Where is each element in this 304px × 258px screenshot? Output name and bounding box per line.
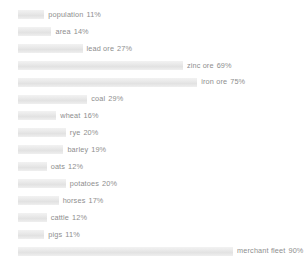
bar-row-horses: horses17% xyxy=(18,194,104,207)
bar-value-lead-ore: 27% xyxy=(117,44,132,53)
bar-label-barley: barley19% xyxy=(67,146,106,153)
bar-label-area: area14% xyxy=(55,28,88,35)
bar-value-rye: 20% xyxy=(83,128,98,137)
bar-label-text-barley: barley xyxy=(67,145,88,154)
bar-label-zinc-ore: zinc ore69% xyxy=(187,62,232,69)
bar-value-cattle: 12% xyxy=(72,213,87,222)
bar-value-oats: 12% xyxy=(68,162,83,171)
bar-value-pigs: 11% xyxy=(65,230,80,239)
bar-row-cattle: cattle12% xyxy=(18,211,87,224)
bar-row-pigs: pigs11% xyxy=(18,228,80,241)
bar-horses xyxy=(18,196,59,205)
bar-lead-ore xyxy=(18,44,83,53)
bar-label-text-population: population xyxy=(48,10,83,19)
bar-value-iron-ore: 75% xyxy=(230,77,245,86)
bar-row-barley: barley19% xyxy=(18,143,106,156)
bar-label-merchant-fleet: merchant fleet90% xyxy=(237,247,303,254)
bar-row-coal: coal29% xyxy=(18,93,123,106)
bar-wheat xyxy=(18,111,56,120)
bar-row-wheat: wheat16% xyxy=(18,109,99,122)
bar-cattle xyxy=(18,213,47,222)
bar-value-zinc-ore: 69% xyxy=(217,61,232,70)
bar-value-population: 11% xyxy=(86,10,101,19)
bar-row-oats: oats12% xyxy=(18,160,83,173)
bar-label-pigs: pigs11% xyxy=(48,231,80,238)
bar-label-coal: coal29% xyxy=(91,95,123,102)
bar-label-text-cattle: cattle xyxy=(51,213,69,222)
bar-rye xyxy=(18,128,66,137)
bar-iron-ore xyxy=(18,78,197,87)
bar-label-text-horses: horses xyxy=(63,196,86,205)
bar-label-population: population11% xyxy=(48,11,101,18)
bar-label-text-potatoes: potatoes xyxy=(70,179,99,188)
bar-label-potatoes: potatoes20% xyxy=(70,180,117,187)
bar-row-rye: rye20% xyxy=(18,126,98,139)
bar-row-lead-ore: lead ore27% xyxy=(18,42,132,55)
bar-label-text-merchant-fleet: merchant fleet xyxy=(237,246,285,255)
bar-row-area: area14% xyxy=(18,25,89,38)
bar-label-iron-ore: iron ore75% xyxy=(201,78,245,85)
bar-row-potatoes: potatoes20% xyxy=(18,177,117,190)
bar-value-wheat: 16% xyxy=(83,111,98,120)
bar-label-text-oats: oats xyxy=(51,162,65,171)
bar-label-text-zinc-ore: zinc ore xyxy=(187,61,214,70)
bar-row-merchant-fleet: merchant fleet90% xyxy=(18,245,304,258)
bar-population xyxy=(18,10,44,19)
bar-label-lead-ore: lead ore27% xyxy=(87,45,133,52)
bar-label-rye: rye20% xyxy=(70,129,99,136)
bar-merchant-fleet xyxy=(18,247,233,256)
bar-value-area: 14% xyxy=(74,27,89,36)
bar-barley xyxy=(18,145,63,154)
bar-row-zinc-ore: zinc ore69% xyxy=(18,59,232,72)
bar-coal xyxy=(18,95,87,104)
bar-value-potatoes: 20% xyxy=(102,179,117,188)
bar-label-text-rye: rye xyxy=(70,128,81,137)
bar-label-horses: horses17% xyxy=(63,197,104,204)
bar-value-barley: 19% xyxy=(91,145,106,154)
bar-value-coal: 29% xyxy=(108,94,123,103)
bar-label-text-area: area xyxy=(55,27,70,36)
bar-label-wheat: wheat16% xyxy=(60,112,98,119)
bar-zinc-ore xyxy=(18,61,183,70)
bar-label-text-coal: coal xyxy=(91,94,105,103)
bar-label-cattle: cattle12% xyxy=(51,214,87,221)
bar-row-iron-ore: iron ore75% xyxy=(18,76,245,89)
bar-label-text-pigs: pigs xyxy=(48,230,62,239)
bar-row-population: population11% xyxy=(18,8,101,21)
bar-label-text-lead-ore: lead ore xyxy=(87,44,115,53)
bar-label-text-iron-ore: iron ore xyxy=(201,77,227,86)
bar-value-horses: 17% xyxy=(88,196,103,205)
bar-area xyxy=(18,27,51,36)
bar-value-merchant-fleet: 90% xyxy=(288,246,303,255)
bar-label-oats: oats12% xyxy=(51,163,83,170)
bar-potatoes xyxy=(18,179,66,188)
bar-oats xyxy=(18,162,47,171)
bar-pigs xyxy=(18,230,44,239)
bar-label-text-wheat: wheat xyxy=(60,111,80,120)
